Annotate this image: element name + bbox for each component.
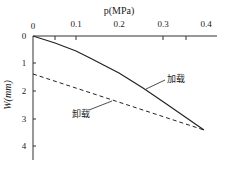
x-ticks xyxy=(55,36,186,40)
unloading-label: 卸载 xyxy=(72,108,90,119)
y-tick-label: 4 xyxy=(22,141,27,151)
x-tick-label: 0.4 xyxy=(200,19,212,29)
x-tick-label: 0.2 xyxy=(113,19,124,29)
chart: 0 0.1 0.2 0.3 0.4 p(MPa) 0 1 2 3 4 W(mm)… xyxy=(0,0,227,170)
y-axis-title: W(mm) xyxy=(2,80,14,110)
loading-label: 加载 xyxy=(167,73,185,84)
unloading-leader xyxy=(89,101,112,110)
x-tick-label: 0.3 xyxy=(157,19,169,29)
x-tick-label: 0 xyxy=(31,21,36,31)
loading-leader xyxy=(146,80,165,89)
y-tick-label: 3 xyxy=(22,114,27,124)
y-tick-label: 1 xyxy=(22,58,27,68)
x-axis-title: p(MPa) xyxy=(104,5,135,17)
x-tick-label: 0.1 xyxy=(70,19,81,29)
y-tick-label: 0 xyxy=(22,31,27,41)
y-tick-label: 2 xyxy=(22,86,27,96)
